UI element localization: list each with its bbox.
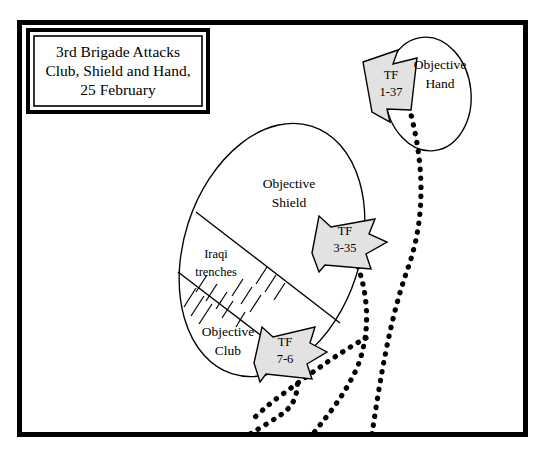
objective-club-label-line-1: Objective: [202, 324, 254, 339]
objective-shield-label: Objective Shield: [263, 176, 315, 210]
tactical-map-figure: TF 1-37 TF 3-35 TF 7-6 Objective Shield …: [0, 0, 547, 462]
iraqi-trenches-label-line-2: trenches: [195, 265, 237, 279]
iraqi-trenches-label-line-1: Iraqi: [204, 247, 228, 261]
tf-7-6-designation: TF: [278, 335, 293, 349]
objective-club-label: Objective Club: [202, 324, 254, 358]
tf-1-37-designation: TF: [384, 68, 399, 82]
tf-1-37-number: 1-37: [380, 85, 403, 99]
tf-7-6-symbol[interactable]: TF 7-6: [254, 327, 327, 382]
objective-hand-label: Objective Hand: [414, 57, 466, 91]
tf-3-35-symbol[interactable]: TF 3-35: [312, 216, 387, 272]
title-box: 3rd Brigade Attacks Club, Shield and Han…: [28, 30, 208, 112]
tf-3-35-number: 3-35: [334, 241, 357, 255]
map-canvas: TF 1-37 TF 3-35 TF 7-6 Objective Shield …: [0, 0, 547, 462]
tf-1-37-symbol[interactable]: TF 1-37: [363, 50, 417, 122]
axis-of-advance-right: [372, 90, 421, 434]
objective-shield-label-line-2: Shield: [272, 195, 307, 210]
title-line-1: 3rd Brigade Attacks: [56, 43, 180, 60]
objective-hand-label-line-2: Hand: [425, 76, 454, 91]
title-line-3: 25 February: [80, 81, 156, 98]
iraqi-trenches-label: Iraqi trenches: [195, 247, 237, 279]
tf-3-35-designation: TF: [338, 224, 353, 238]
axis-of-advance-center: [313, 258, 367, 434]
objective-hand-label-line-1: Objective: [414, 57, 466, 72]
objective-shield-label-line-1: Objective: [263, 176, 315, 191]
title-line-2: Club, Shield and Hand,: [45, 62, 190, 79]
tf-7-6-number: 7-6: [277, 352, 294, 366]
objective-club-label-line-2: Club: [215, 343, 242, 358]
